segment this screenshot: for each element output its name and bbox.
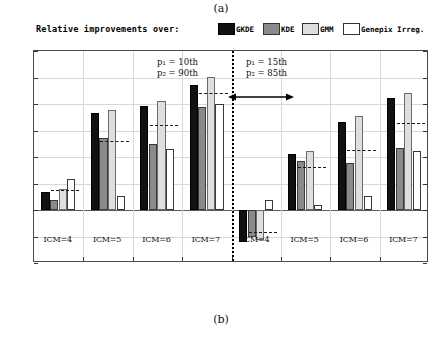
bar-gmm-icm-7-p2 (404, 93, 412, 210)
y-tick-mark (34, 210, 38, 211)
bar-genepix-irreg-icm-4-p1 (67, 179, 75, 210)
legend-swatch-kde (263, 23, 280, 35)
y-tick-mark-right (423, 78, 427, 79)
gridline-vertical (330, 51, 331, 261)
legend-entry-genepix: Genepix Irreg. (343, 22, 424, 36)
bar-genepix-irreg-icm-6-p1 (166, 149, 174, 210)
gridline-vertical (182, 51, 183, 261)
y-tick-mark-right (423, 51, 427, 52)
legend-swatch-gmm (302, 23, 319, 35)
bar-genepix-irreg-icm-5-p1 (117, 196, 125, 210)
figure-panel-b: Relative improvements over: GKDE KDE GMM… (0, 20, 442, 310)
y-tick-mark-right (423, 263, 427, 264)
bar-gmm-icm-6-p2 (355, 116, 363, 210)
group-mean-line-6 (298, 167, 326, 168)
x-tick-mark (182, 257, 183, 261)
legend-entry-gkde: GKDE (218, 22, 254, 36)
bar-genepix-irreg-icm-7-p2 (413, 151, 421, 210)
legend-label-gkde: GKDE (236, 25, 254, 34)
group-mean-line-2 (100, 141, 128, 142)
bar-kde-icm-5-p1 (99, 138, 107, 210)
bar-gkde-icm-6-p2 (338, 122, 346, 210)
y-tick-mark (34, 104, 38, 105)
y-tick-mark (34, 184, 38, 185)
subfigure-label-a: (a) (0, 2, 442, 15)
legend-swatch-genepix (343, 23, 360, 35)
x-tick-mark (330, 257, 331, 261)
annotation-right-percentiles: p₁ = 15th p₂ = 85th (246, 57, 287, 79)
bar-kde-icm-6-p1 (149, 144, 157, 210)
double-arrow-icon (228, 87, 294, 97)
x-tick-mark (380, 257, 381, 261)
bar-gkde-icm-6-p1 (140, 106, 148, 210)
annotation-left-line1: p₁ = 10th (157, 57, 198, 68)
legend-title: Relative improvements over: (36, 24, 180, 34)
bar-gmm-icm-5-p1 (108, 110, 116, 210)
bar-kde-icm-4-p2 (248, 210, 256, 237)
subfigure-label-b: (b) (0, 313, 442, 326)
bar-gkde-icm-7-p1 (190, 85, 198, 210)
bar-gkde-icm-5-p2 (288, 154, 296, 210)
annotation-right-line2: p₂ = 85th (246, 68, 287, 79)
group-mean-line-4 (199, 93, 227, 94)
group-mean-line-3 (150, 125, 178, 126)
group-mean-line-5 (249, 232, 277, 233)
gridline-vertical (133, 51, 134, 261)
bar-genepix-irreg-icm-4-p2 (265, 200, 273, 210)
legend-label-kde: KDE (281, 25, 295, 34)
gridline-vertical (380, 51, 381, 261)
y-tick-mark-right (423, 184, 427, 185)
y-tick-mark-right (423, 157, 427, 158)
group-mean-line-1 (51, 190, 79, 191)
bar-gmm-icm-7-p1 (207, 77, 215, 210)
x-tick-mark (83, 257, 84, 261)
annotation-left-line2: p₂ = 90th (157, 68, 198, 79)
bar-kde-icm-5-p2 (297, 161, 305, 210)
y-tick-mark (34, 78, 38, 79)
gridline-horizontal (34, 104, 427, 105)
bar-gkde-icm-5-p1 (91, 113, 99, 210)
legend-label-genepix: Genepix Irreg. (361, 25, 424, 34)
bar-kde-icm-4-p1 (50, 200, 58, 210)
legend-entry-kde: KDE (263, 22, 295, 36)
bar-kde-icm-6-p2 (346, 163, 354, 210)
bar-gkde-icm-4-p1 (41, 192, 49, 210)
legend-entry-gmm: GMM (302, 22, 334, 36)
bar-kde-icm-7-p1 (198, 107, 206, 210)
legend-label-gmm: GMM (320, 25, 334, 34)
gridline-horizontal (34, 78, 427, 79)
bar-gkde-icm-7-p2 (387, 98, 395, 210)
zero-line (34, 210, 427, 211)
plot-area: -2-10123456 p₁ = 10th p₂ = 90th p₁ = 15t… (33, 50, 428, 262)
x-tick-mark (281, 257, 282, 261)
x-axis-label-8: ICM=7 (373, 235, 433, 244)
annotation-right-line1: p₁ = 15th (246, 57, 287, 68)
gridline-vertical (281, 51, 282, 261)
panel-divider-line (232, 51, 234, 261)
x-tick-mark (133, 257, 134, 261)
y-tick-mark (34, 131, 38, 132)
group-mean-line-8 (397, 123, 425, 124)
gridline-vertical (83, 51, 84, 261)
y-tick-mark (34, 263, 38, 264)
y-tick-mark-right (423, 104, 427, 105)
bar-gmm-icm-5-p2 (306, 151, 314, 210)
y-tick-mark (34, 157, 38, 158)
bar-gmm-icm-6-p1 (157, 101, 165, 210)
annotation-left-percentiles: p₁ = 10th p₂ = 90th (157, 57, 198, 79)
bar-gmm-icm-4-p1 (59, 189, 67, 210)
bar-genepix-irreg-icm-5-p2 (314, 205, 322, 210)
legend-swatch-gkde (218, 23, 235, 35)
y-tick-mark-right (423, 210, 427, 211)
bar-kde-icm-7-p2 (396, 148, 404, 210)
group-mean-line-7 (347, 150, 375, 151)
y-tick-mark-right (423, 131, 427, 132)
y-tick-mark (34, 51, 38, 52)
bar-genepix-irreg-icm-6-p2 (364, 196, 372, 210)
bar-genepix-irreg-icm-7-p1 (215, 104, 223, 210)
legend: Relative improvements over: GKDE KDE GMM… (0, 20, 442, 46)
